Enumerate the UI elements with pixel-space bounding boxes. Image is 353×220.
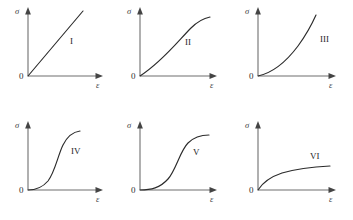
y-axis-label: σ <box>245 120 250 130</box>
origin-label: 0 <box>249 71 254 81</box>
x-axis-arrowhead <box>96 187 104 193</box>
curve-label-iv: IV <box>71 146 81 156</box>
panel-vi: σ ε 0 VI <box>234 105 353 220</box>
curve-label-iii: III <box>320 34 329 44</box>
curve-label-vi: VI <box>310 151 320 161</box>
y-axis-arrowhead <box>137 121 143 129</box>
stress-strain-figure: σ ε 0 I σ ε 0 II <box>0 0 353 220</box>
x-axis-arrowhead <box>210 187 218 193</box>
panel-iii: σ ε 0 III <box>234 0 353 105</box>
curve-i <box>28 11 83 76</box>
curve-vi <box>258 166 330 190</box>
x-axis-arrowhead <box>96 73 104 79</box>
x-axis-label: ε <box>329 80 333 90</box>
y-axis-arrowhead <box>137 7 143 15</box>
y-axis-arrowhead <box>255 7 261 15</box>
y-axis-arrowhead <box>255 121 261 129</box>
origin-label: 0 <box>249 185 254 195</box>
y-axis-label: σ <box>15 120 20 130</box>
y-axis-label: σ <box>245 6 250 16</box>
curve-ii <box>140 17 210 76</box>
y-axis-label: σ <box>127 6 132 16</box>
x-axis-label: ε <box>329 194 333 204</box>
origin-label: 0 <box>131 185 136 195</box>
x-axis-label: ε <box>210 80 214 90</box>
panel-v: σ ε 0 V <box>117 105 234 220</box>
panel-i: σ ε 0 I <box>0 0 117 105</box>
x-axis-arrowhead <box>329 73 337 79</box>
x-axis-label: ε <box>210 194 214 204</box>
y-axis-label: σ <box>127 120 132 130</box>
x-axis-arrowhead <box>210 73 218 79</box>
x-axis-label: ε <box>96 80 100 90</box>
curve-label-v: V <box>193 147 200 157</box>
curve-label-i: I <box>70 36 73 46</box>
x-axis-arrowhead <box>329 187 337 193</box>
panel-ii: σ ε 0 II <box>117 0 234 105</box>
x-axis-label: ε <box>96 194 100 204</box>
curve-v <box>140 135 209 190</box>
curve-label-ii: II <box>185 37 191 47</box>
y-axis-label: σ <box>15 6 20 16</box>
panel-iv: σ ε 0 IV <box>0 105 117 220</box>
origin-label: 0 <box>19 71 24 81</box>
curve-iii <box>258 15 316 76</box>
origin-label: 0 <box>19 185 24 195</box>
y-axis-arrowhead <box>25 7 31 15</box>
curve-iv <box>28 131 80 190</box>
origin-label: 0 <box>131 71 136 81</box>
y-axis-arrowhead <box>25 121 31 129</box>
panel-grid: σ ε 0 I σ ε 0 II <box>0 0 353 220</box>
